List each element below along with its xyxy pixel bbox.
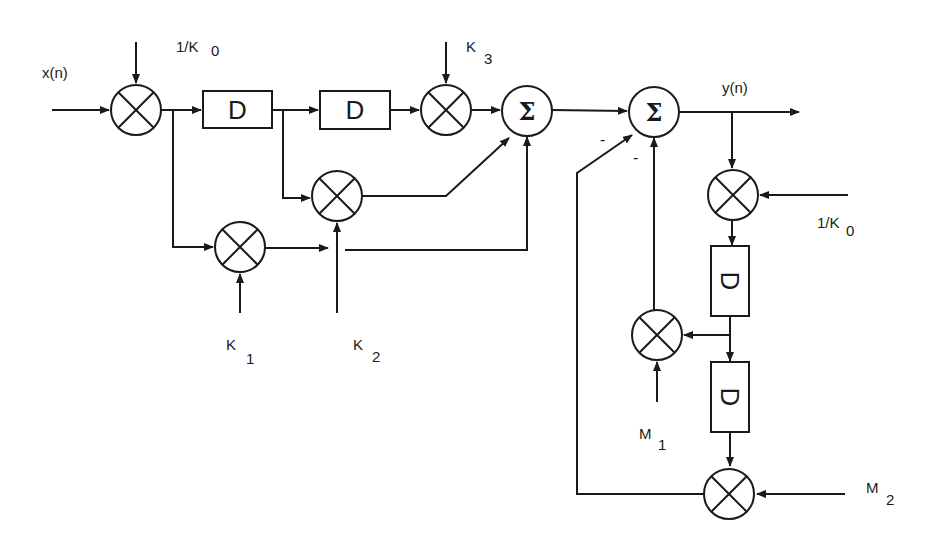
coef-k0-right-label: 1/K 0	[817, 214, 854, 239]
delay-block-2: D	[320, 91, 390, 129]
delay-label: D	[346, 95, 365, 125]
svg-text:M: M	[639, 425, 652, 442]
wire-to-mult-k1	[173, 110, 213, 247]
coef-k1-label: K 1	[226, 336, 254, 367]
svg-text:K: K	[353, 336, 363, 353]
adder-sum-1: Σ	[502, 86, 552, 136]
coef-m2-label: M 2	[866, 479, 894, 508]
delay-block-3: D	[711, 246, 749, 316]
sum-symbol: Σ	[519, 97, 536, 126]
svg-text:1/K: 1/K	[817, 214, 840, 231]
coef-m1-label: M 1	[639, 425, 666, 453]
svg-text:1: 1	[246, 350, 254, 367]
svg-text:3: 3	[484, 50, 492, 67]
svg-text:1: 1	[658, 436, 666, 453]
minus-sign-feedback-m2: -	[600, 131, 605, 148]
multiplier-k3	[421, 85, 471, 135]
coef-k2-label: K 2	[353, 336, 380, 365]
delay-block-1: D	[203, 91, 272, 128]
multiplier-k1	[215, 222, 265, 272]
wire-to-mult-k2	[283, 110, 310, 198]
svg-text:M: M	[866, 479, 879, 496]
multiplier-k2	[312, 171, 362, 221]
svg-text:1/K: 1/K	[176, 38, 199, 55]
input-signal-label: x(n)	[42, 64, 68, 81]
svg-text:K: K	[226, 336, 236, 353]
adder-sum-2: Σ	[629, 87, 679, 137]
delay-label: D	[715, 388, 745, 407]
svg-text:2: 2	[372, 348, 380, 365]
multiplier-m2	[704, 469, 754, 519]
delay-label: D	[228, 95, 247, 125]
minus-sign-feedback-m1: -	[633, 149, 638, 166]
delay-block-4: D	[711, 362, 749, 432]
svg-text:2: 2	[886, 491, 894, 508]
coef-k0-top-label: 1/K 0	[176, 38, 219, 59]
svg-text:0: 0	[846, 222, 854, 239]
coef-k3-label: K 3	[466, 38, 492, 67]
wire-k2-to-sum1	[362, 138, 509, 196]
output-signal-label: y(n)	[722, 79, 748, 96]
svg-text:K: K	[466, 38, 476, 55]
block-diagram: Σ Σ D D D D x(n) y(n) 1/K 0 K 3 K 1 K 2 …	[0, 0, 941, 545]
delay-label: D	[715, 272, 745, 291]
multiplier-m1	[632, 310, 682, 360]
wire-sum1-to-sum2	[552, 110, 627, 111]
sum-symbol: Σ	[646, 98, 663, 127]
wire-k1-to-sum1	[345, 137, 527, 250]
svg-text:0: 0	[211, 42, 219, 59]
multiplier-k0-in	[111, 85, 161, 135]
multiplier-k0-feedback	[708, 170, 758, 220]
